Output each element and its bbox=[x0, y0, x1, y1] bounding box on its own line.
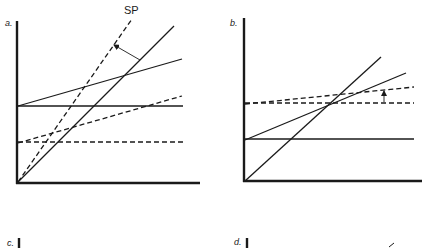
panel-a-label: a. bbox=[5, 18, 13, 28]
shift-arrow-icon bbox=[114, 45, 140, 60]
panel-d-label: d. bbox=[234, 237, 242, 247]
line-fragment bbox=[389, 243, 394, 247]
dashed-sloped-line bbox=[18, 96, 182, 143]
dashed-sloped-line bbox=[245, 87, 414, 104]
panel-c-label: c. bbox=[7, 238, 14, 248]
sloped-line bbox=[245, 73, 406, 140]
steep-line bbox=[245, 57, 381, 181]
panel-d bbox=[247, 238, 394, 248]
sp-annotation: SP bbox=[124, 4, 139, 16]
panel-a bbox=[16, 19, 200, 184]
sloped-line bbox=[18, 59, 182, 106]
steep-line bbox=[18, 26, 174, 182]
diagram-canvas: a. SP b. c. d. bbox=[0, 0, 422, 248]
panel-b bbox=[243, 18, 422, 182]
panel-b-label: b. bbox=[230, 18, 238, 28]
